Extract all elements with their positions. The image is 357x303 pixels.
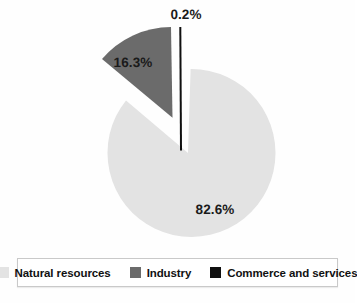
legend-item-industry[interactable]: Industry bbox=[130, 267, 192, 279]
pie-slice-commerce-and-services[interactable] bbox=[179, 27, 182, 151]
chart-legend: Natural resources Industry Commerce and … bbox=[17, 258, 338, 287]
legend-item-natural-resources[interactable]: Natural resources bbox=[0, 267, 111, 279]
pie-plot-area: 82.6% 16.3% 0.2% bbox=[0, 0, 355, 252]
legend-label-commerce-and-services: Commerce and services bbox=[227, 267, 357, 279]
legend-swatch-commerce-and-services-icon bbox=[210, 267, 221, 278]
legend-swatch-natural-resources-icon bbox=[0, 267, 9, 278]
legend-label-industry: Industry bbox=[147, 267, 192, 279]
slice-value-commerce-and-services: 0.2% bbox=[170, 7, 201, 22]
legend-swatch-industry-icon bbox=[130, 267, 141, 278]
pie-slice-industry[interactable] bbox=[102, 27, 173, 118]
legend-item-commerce-and-services[interactable]: Commerce and services bbox=[210, 267, 357, 279]
slice-value-industry: 16.3% bbox=[114, 55, 153, 70]
pie-svg bbox=[0, 0, 355, 252]
legend-label-natural-resources: Natural resources bbox=[15, 267, 111, 279]
pie-slice-natural-resources[interactable] bbox=[107, 69, 275, 237]
slice-value-natural-resources: 82.6% bbox=[196, 202, 235, 217]
